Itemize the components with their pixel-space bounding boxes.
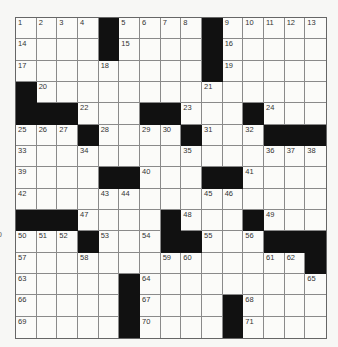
grid-cell[interactable] — [99, 210, 120, 231]
grid-cell[interactable]: 14 — [16, 39, 37, 60]
grid-cell[interactable]: 33 — [16, 146, 37, 167]
grid-cell[interactable] — [264, 317, 285, 338]
grid-cell[interactable] — [78, 39, 99, 60]
grid-cell[interactable] — [57, 295, 78, 316]
grid-cell[interactable]: 52 — [57, 231, 78, 252]
grid-cell[interactable] — [78, 274, 99, 295]
grid-cell[interactable] — [37, 295, 58, 316]
grid-cell[interactable] — [57, 253, 78, 274]
grid-cell[interactable]: 7 — [161, 18, 182, 39]
grid-cell[interactable] — [264, 189, 285, 210]
grid-cell[interactable]: 11 — [264, 18, 285, 39]
grid-cell[interactable] — [264, 82, 285, 103]
grid-cell[interactable] — [140, 253, 161, 274]
grid-cell[interactable] — [57, 317, 78, 338]
grid-cell[interactable] — [161, 146, 182, 167]
grid-cell[interactable]: 24 — [264, 103, 285, 124]
grid-cell[interactable] — [37, 317, 58, 338]
grid-cell[interactable] — [140, 82, 161, 103]
grid-cell[interactable] — [57, 82, 78, 103]
grid-cell[interactable] — [161, 189, 182, 210]
grid-cell[interactable] — [57, 61, 78, 82]
grid-cell[interactable] — [305, 189, 326, 210]
grid-cell[interactable] — [161, 295, 182, 316]
grid-cell[interactable] — [285, 189, 306, 210]
grid-cell[interactable] — [202, 210, 223, 231]
grid-cell[interactable]: 22 — [78, 103, 99, 124]
grid-cell[interactable] — [119, 103, 140, 124]
grid-cell[interactable]: 30 — [161, 125, 182, 146]
grid-cell[interactable] — [285, 61, 306, 82]
grid-cell[interactable] — [181, 39, 202, 60]
grid-cell[interactable] — [202, 253, 223, 274]
grid-cell[interactable]: 57 — [16, 253, 37, 274]
grid-cell[interactable]: 43 — [99, 189, 120, 210]
grid-cell[interactable] — [181, 167, 202, 188]
grid-cell[interactable]: 8 — [181, 18, 202, 39]
grid-cell[interactable] — [37, 274, 58, 295]
grid-cell[interactable]: 28 — [99, 125, 120, 146]
grid-cell[interactable]: 37 — [285, 146, 306, 167]
grid-cell[interactable] — [305, 210, 326, 231]
grid-cell[interactable] — [140, 146, 161, 167]
grid-cell[interactable]: 68 — [243, 295, 264, 316]
grid-cell[interactable] — [161, 167, 182, 188]
grid-cell[interactable]: 46 — [223, 189, 244, 210]
grid-cell[interactable]: 36 — [264, 146, 285, 167]
grid-cell[interactable] — [37, 167, 58, 188]
grid-cell[interactable] — [140, 39, 161, 60]
grid-cell[interactable] — [243, 189, 264, 210]
grid-cell[interactable]: 71 — [243, 317, 264, 338]
grid-cell[interactable] — [140, 210, 161, 231]
grid-cell[interactable] — [78, 167, 99, 188]
grid-cell[interactable] — [243, 82, 264, 103]
grid-cell[interactable] — [264, 167, 285, 188]
grid-cell[interactable]: 19 — [223, 61, 244, 82]
grid-cell[interactable] — [37, 189, 58, 210]
grid-cell[interactable]: 62 — [285, 253, 306, 274]
grid-cell[interactable]: 42 — [16, 189, 37, 210]
grid-cell[interactable] — [202, 295, 223, 316]
grid-cell[interactable]: 9 — [223, 18, 244, 39]
grid-cell[interactable] — [305, 317, 326, 338]
grid-cell[interactable] — [285, 317, 306, 338]
grid-cell[interactable]: 39 — [16, 167, 37, 188]
grid-cell[interactable]: 47 — [78, 210, 99, 231]
grid-cell[interactable] — [243, 274, 264, 295]
grid-cell[interactable] — [285, 274, 306, 295]
grid-cell[interactable]: 29 — [140, 125, 161, 146]
grid-cell[interactable] — [264, 295, 285, 316]
grid-cell[interactable]: 58 — [78, 253, 99, 274]
grid-cell[interactable] — [181, 61, 202, 82]
grid-cell[interactable]: 48 — [181, 210, 202, 231]
grid-cell[interactable] — [181, 82, 202, 103]
grid-cell[interactable]: 17 — [16, 61, 37, 82]
grid-cell[interactable] — [305, 82, 326, 103]
grid-cell[interactable] — [305, 167, 326, 188]
grid-cell[interactable]: 61 — [264, 253, 285, 274]
grid-cell[interactable]: 70 — [140, 317, 161, 338]
grid-cell[interactable] — [99, 295, 120, 316]
grid-cell[interactable] — [119, 125, 140, 146]
grid-cell[interactable]: 2 — [37, 18, 58, 39]
grid-cell[interactable]: 65 — [305, 274, 326, 295]
grid-cell[interactable] — [223, 146, 244, 167]
grid-cell[interactable] — [305, 103, 326, 124]
grid-cell[interactable]: 50 — [16, 231, 37, 252]
grid-cell[interactable]: 15 — [119, 39, 140, 60]
grid-cell[interactable] — [99, 103, 120, 124]
grid-cell[interactable] — [243, 253, 264, 274]
grid-cell[interactable] — [243, 146, 264, 167]
grid-cell[interactable] — [37, 253, 58, 274]
grid-cell[interactable] — [99, 274, 120, 295]
grid-cell[interactable] — [99, 146, 120, 167]
grid-cell[interactable]: 25 — [16, 125, 37, 146]
grid-cell[interactable] — [99, 253, 120, 274]
grid-cell[interactable] — [57, 189, 78, 210]
grid-cell[interactable] — [243, 39, 264, 60]
grid-cell[interactable]: 59 — [161, 253, 182, 274]
grid-cell[interactable] — [119, 146, 140, 167]
grid-cell[interactable] — [285, 295, 306, 316]
grid-cell[interactable] — [37, 61, 58, 82]
grid-cell[interactable] — [223, 82, 244, 103]
